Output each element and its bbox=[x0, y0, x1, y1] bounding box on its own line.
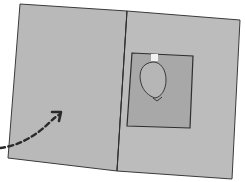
card-illustration bbox=[0, 0, 245, 182]
balloon-tab bbox=[151, 54, 158, 61]
card-left-panel bbox=[8, 4, 127, 171]
